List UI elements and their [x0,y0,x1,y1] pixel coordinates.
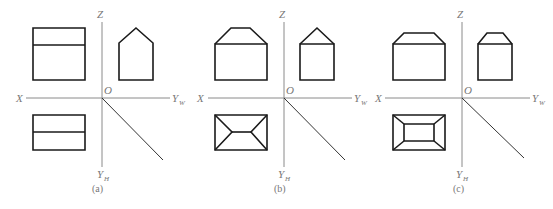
panel-a: XZOYWYH(a) [15,8,186,195]
yh-axis-subscript: H [103,175,110,183]
top-view [33,115,85,150]
front-view-edge [33,28,85,80]
top-view-edge [215,115,232,150]
miter-line-45deg [462,98,524,158]
top-view-edge [393,141,404,150]
panel-caption: (b) [274,183,286,195]
front-view-edge [393,44,445,80]
front-view [215,28,267,80]
yh-axis-subscript: H [462,175,469,183]
side-view-edge [300,44,334,80]
panel-b: XZOYWYH(b) [196,8,368,195]
side-view-edge [478,44,512,80]
yw-axis-subscript: W [361,99,368,107]
side-view [478,33,512,80]
miter-line-45deg [102,98,163,160]
x-axis-label: X [15,92,24,104]
z-axis-label: Z [457,8,464,20]
top-view [393,115,445,150]
origin-label: O [286,84,294,96]
side-view-edge [119,28,153,80]
yw-axis-subscript: W [179,99,186,107]
three-view-projection-figure: XZOYWYH(a)XZOYWYH(b)XZOYWYH(c) [0,0,553,209]
top-view-edge [434,141,445,150]
top-view-edge [251,115,267,150]
top-view-edge [434,115,445,124]
projection-diagram: XZOYWYH(a)XZOYWYH(b)XZOYWYH(c) [0,0,553,209]
origin-label: O [104,84,112,96]
side-view [119,28,153,80]
top-view-edge [393,115,445,150]
yw-axis-subscript: W [539,99,546,107]
front-view-edge [393,33,445,44]
side-view-edge [300,28,334,44]
origin-label: O [464,84,472,96]
z-axis-label: Z [279,8,286,20]
side-view-edge [478,33,512,44]
front-view-edge [215,44,267,80]
x-axis-label: X [196,92,205,104]
panel-c: XZOYWYH(c) [374,8,546,195]
panel-caption: (a) [92,183,103,195]
top-view-edge [393,115,404,124]
top-view [215,115,267,150]
front-view-edge [215,28,267,44]
miter-line-45deg [284,98,345,160]
x-axis-label: X [374,92,383,104]
side-view [300,28,334,80]
yh-axis-subscript: H [284,175,291,183]
front-view [393,33,445,80]
front-view [33,28,85,80]
panel-caption: (c) [453,183,464,195]
z-axis-label: Z [97,8,104,20]
top-view-edge [404,124,434,141]
